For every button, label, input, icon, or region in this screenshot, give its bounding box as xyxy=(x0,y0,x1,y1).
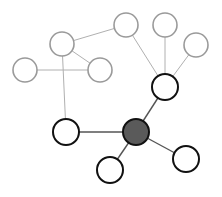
node-D xyxy=(114,13,138,37)
node-C xyxy=(88,58,112,82)
node-F xyxy=(184,33,208,57)
node-I xyxy=(53,119,79,145)
nodes-layer xyxy=(13,13,208,183)
node-A xyxy=(13,58,37,82)
node-H-hub xyxy=(123,119,149,145)
node-J xyxy=(97,157,123,183)
node-B xyxy=(50,32,74,56)
node-E xyxy=(153,13,177,37)
network-diagram xyxy=(0,0,222,197)
node-K xyxy=(173,146,199,172)
node-G xyxy=(152,74,178,100)
